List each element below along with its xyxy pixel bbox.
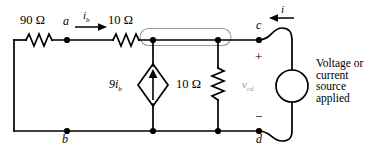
resistor-10-shunt-body — [212, 68, 224, 100]
circuit-diagram: 90 Ω a ib 10 Ω 9ib 10 Ω c + vcd − d b i … — [0, 0, 373, 151]
applied-source-caption: Voltage or current source applied — [316, 58, 363, 104]
voltage-vcd-label: vcd — [242, 79, 254, 93]
resistor-90-body — [26, 34, 52, 46]
node-dot-a — [64, 37, 70, 43]
dependent-source-arrow-head — [149, 69, 158, 78]
dependent-source-label-main: 9i — [109, 77, 118, 91]
dependent-source-label-sub: b — [118, 85, 122, 93]
node-label-b: b — [62, 133, 68, 145]
resistor-90-label: 90 Ω — [20, 14, 45, 27]
node-label-d: d — [256, 133, 262, 145]
applied-source-circle — [276, 70, 308, 102]
polarity-plus: + — [255, 50, 262, 63]
resistor-10-series-label: 10 Ω — [108, 14, 133, 27]
wire-right-bottom-curve — [259, 102, 292, 141]
node-label-c: c — [256, 19, 261, 31]
voltage-vcd-label-sub: cd — [247, 85, 254, 93]
junction-dot-shunt-top — [215, 37, 221, 43]
current-ib-arrow-head — [98, 23, 107, 31]
current-i-label: i — [281, 4, 284, 15]
polarity-minus: − — [255, 110, 262, 123]
junction-dot-depsrc-bottom — [150, 128, 156, 134]
dependent-source-label: 9ib — [109, 78, 122, 93]
applied-source-caption-line4: applied — [316, 93, 363, 105]
resistor-10-shunt-label: 10 Ω — [176, 78, 201, 91]
resistor-10-series-body — [113, 34, 139, 46]
node-dot-c — [256, 37, 262, 43]
node-label-a: a — [63, 15, 69, 27]
current-ib-label-sub: b — [86, 16, 90, 24]
junction-dot-shunt-bottom — [215, 128, 221, 134]
applied-source-caption-line1: Voltage or — [316, 58, 363, 70]
junction-dots-group — [64, 37, 262, 134]
junction-dot-depsrc-top — [150, 37, 156, 43]
applied-source-caption-line3: source — [316, 81, 363, 93]
wire-right-top-curve — [259, 28, 292, 70]
current-i-arrow-head — [269, 14, 278, 22]
current-ib-label: ib — [83, 10, 90, 24]
